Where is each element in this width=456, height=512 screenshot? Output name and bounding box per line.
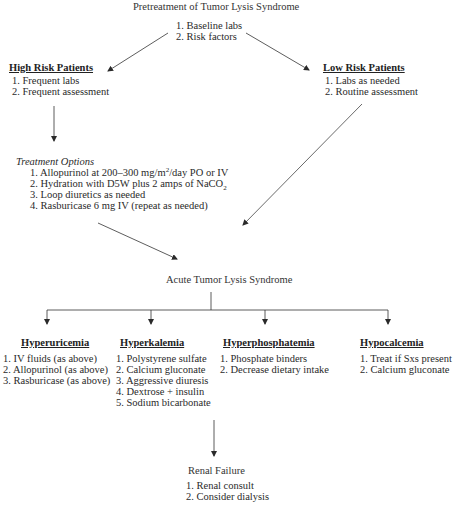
treatment-options-heading: Treatment Options [16,156,94,167]
list-item: 2. Allopurinol (as above) [3,364,110,375]
list-item: 1. Treat if Sxs present [360,353,452,364]
pretreatment-list: 1. Baseline labs 2. Risk factors [176,20,242,42]
hyperphosphatemia-list: 1. Phosphate binders 2. Decrease dietary… [220,353,329,375]
list-item: 2. Consider dialysis [186,491,269,502]
low-risk-list: 1. Labs as needed 2. Routine assessment [325,75,418,97]
renal-failure-list: 1. Renal consult 2. Consider dialysis [186,480,269,502]
low-risk-heading: Low Risk Patients [323,62,405,73]
list-item: 1. Polystyrene sulfate [116,353,211,364]
list-item: 4. Dextrose + insulin [116,386,211,397]
list-item: 1. Phosphate binders [220,353,329,364]
list-item: 1. IV fluids (as above) [3,353,110,364]
renal-failure-title: Renal Failure [188,465,245,476]
list-item: 1. Frequent labs [12,75,109,86]
list-item: 3. Loop diuretics as needed [30,189,228,200]
list-item: 2. Calcium gluconate [360,364,452,375]
arrow-pretreatment-to-low-risk [246,33,309,70]
hypocalcemia-list: 1. Treat if Sxs present 2. Calcium gluco… [360,353,452,375]
pretreatment-title: Pretreatment of Tumor Lysis Syndrome [133,1,299,12]
arrow-low-risk-to-acute [243,104,362,225]
list-item: 2. Frequent assessment [12,86,109,97]
treatment-options-list: 1. Allopurinol at 200–300 mg/m2/day PO o… [30,167,228,211]
arrow-treatment-to-acute [98,223,177,259]
list-item: 2. Routine assessment [325,86,418,97]
high-risk-heading: High Risk Patients [9,62,93,73]
list-item: 3. Rasburicase (as above) [3,375,110,386]
hyperkalemia-list: 1. Polystyrene sulfate 2. Calcium glucon… [116,353,211,408]
list-item: 5. Sodium bicarbonate [116,397,211,408]
hyperkalemia-heading: Hyperkalemia [120,337,184,348]
arrow-pretreatment-to-high-risk [108,33,168,71]
list-item: 2. Hydration with D5W plus 2 amps of NaC… [30,178,228,189]
list-item: 2. Decrease dietary intake [220,364,329,375]
hyperuricemia-heading: Hyperuricemia [21,337,89,348]
acute-tls-title: Acute Tumor Lysis Syndrome [166,274,292,285]
hyperphosphatemia-heading: Hyperphosphatemia [223,337,315,348]
high-risk-list: 1. Frequent labs 2. Frequent assessment [12,75,109,97]
list-item: 1. Renal consult [186,480,269,491]
list-item: 2. Risk factors [176,31,242,42]
list-item: 1. Labs as needed [325,75,418,86]
hyperuricemia-list: 1. IV fluids (as above) 2. Allopurinol (… [3,353,110,386]
list-item: 3. Aggressive diuresis [116,375,211,386]
list-item: 1. Allopurinol at 200–300 mg/m2/day PO o… [30,167,228,178]
list-item: 4. Rasburicase 6 mg IV (repeat as needed… [30,200,228,211]
list-item: 1. Baseline labs [176,20,242,31]
list-item: 2. Calcium gluconate [116,364,211,375]
hypocalcemia-heading: Hypocalcemia [360,337,424,348]
